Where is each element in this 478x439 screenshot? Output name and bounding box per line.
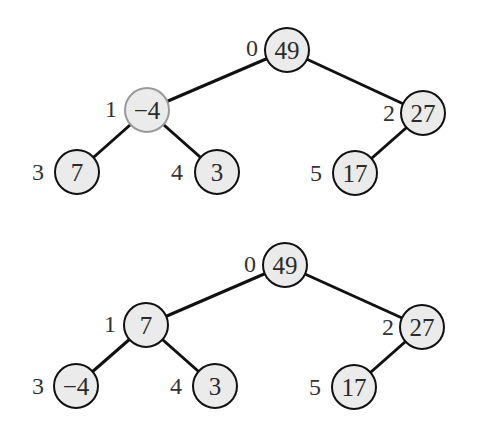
heap-node-1: 7 (123, 302, 169, 348)
heap-node-2: 27 (400, 90, 446, 136)
heap-node-0: 49 (264, 27, 310, 73)
index-label-5: 5 (309, 375, 321, 399)
index-label-1: 1 (105, 97, 117, 121)
heap-tree-before: 0 49 1 −4 2 27 3 7 4 3 5 17 (0, 0, 478, 219)
heap-node-2: 27 (399, 304, 445, 350)
heap-node-3: −4 (53, 363, 99, 409)
index-label-0: 0 (246, 36, 258, 60)
index-label-3: 3 (32, 160, 44, 184)
index-label-0: 0 (244, 252, 256, 276)
heap-node-3: 7 (54, 149, 100, 195)
index-label-1: 1 (104, 312, 116, 336)
index-label-2: 2 (382, 315, 394, 339)
heap-tree-after: 0 49 1 7 2 27 3 −4 4 3 5 17 (0, 220, 478, 439)
index-label-4: 4 (171, 160, 183, 184)
heap-node-5: 17 (332, 150, 378, 196)
index-label-2: 2 (383, 101, 395, 125)
index-label-5: 5 (310, 161, 322, 185)
heap-node-4: 3 (194, 149, 240, 195)
heap-node-1-highlighted: −4 (124, 87, 170, 133)
heap-node-0: 49 (262, 242, 308, 288)
heap-node-5: 17 (331, 364, 377, 410)
index-label-4: 4 (170, 374, 182, 398)
heap-node-4: 3 (192, 363, 238, 409)
index-label-3: 3 (32, 374, 44, 398)
